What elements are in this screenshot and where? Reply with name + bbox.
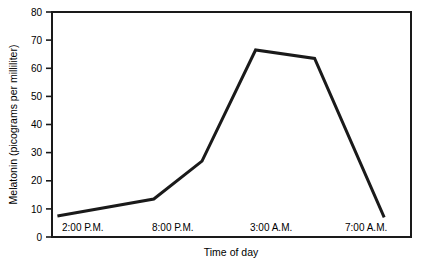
y-tick-label-30: 30 bbox=[31, 147, 43, 158]
y-tick-label-20: 20 bbox=[31, 175, 43, 186]
y-axis-tick-labels: 0 10 20 30 40 50 60 70 80 bbox=[31, 7, 43, 243]
y-tick-label-70: 70 bbox=[31, 35, 43, 46]
x-category-label-3: 3:00 A.M. bbox=[250, 222, 292, 233]
x-category-label-1: 2:00 P.M. bbox=[62, 222, 104, 233]
x-axis-title: Time of day bbox=[204, 246, 259, 258]
x-category-label-2: 8:00 P.M. bbox=[152, 222, 194, 233]
y-axis-title: Melatonin (picograms per milliliter) bbox=[7, 45, 19, 205]
chart-figure: 0 10 20 30 40 50 60 70 80 2:00 P.M. 8:00… bbox=[0, 0, 425, 266]
y-tick-label-10: 10 bbox=[31, 204, 43, 215]
x-category-label-4: 7:00 A.M. bbox=[345, 222, 387, 233]
y-tick-label-60: 60 bbox=[31, 63, 43, 74]
y-tick-label-40: 40 bbox=[31, 119, 43, 130]
melatonin-line-chart: 0 10 20 30 40 50 60 70 80 2:00 P.M. 8:00… bbox=[0, 0, 425, 266]
y-tick-label-80: 80 bbox=[31, 7, 43, 18]
y-tick-label-0: 0 bbox=[36, 232, 42, 243]
y-tick-label-50: 50 bbox=[31, 91, 43, 102]
